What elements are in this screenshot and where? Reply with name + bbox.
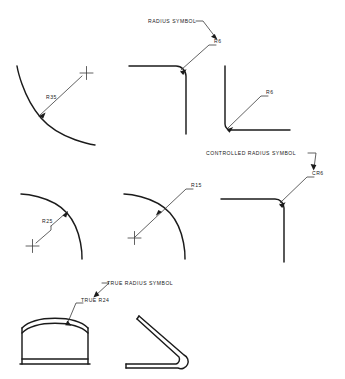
radius-symbol-note-label: RADIUS SYMBOL (148, 18, 196, 24)
r15-leader-line (135, 189, 193, 237)
cr6-dimension-label: CR6 (312, 170, 324, 176)
r6-top-leader-line (181, 45, 216, 70)
figure-cr6-corner: CR6 CONTROLLED RADIUS SYMBOL (206, 150, 324, 263)
r25-arc (21, 194, 82, 259)
controlled-radius-symbol-note-label: CONTROLLED RADIUS SYMBOL (206, 150, 296, 156)
figure-r6-corner: R6 (225, 66, 290, 133)
r35-dimension-label: R35 (46, 94, 57, 100)
figure-r35: R35 (17, 66, 95, 145)
r25-dimension-label: R25 (42, 218, 53, 224)
radius-symbol-corner-profile (129, 66, 186, 134)
figure-bent-sheet-part (126, 316, 188, 369)
figure-r15: R15 (124, 182, 202, 259)
figure-r25: R25 (21, 194, 82, 259)
r25-leader-line (36, 226, 51, 243)
r6-right-dimension-label: R6 (266, 89, 273, 95)
r25-center-mark (26, 240, 39, 253)
cr6-corner-profile (221, 199, 284, 262)
bent-part-top-end-cap (137, 316, 139, 319)
r6-top-dimension-label: R6 (214, 38, 221, 44)
figure-true-r24-arched-part: TRUE R24 TRUE RADIUS SYMBOL (20, 280, 173, 365)
true-radius-symbol-note-label: TRUE RADIUS SYMBOL (107, 280, 173, 286)
r35-center-mark (80, 67, 93, 80)
r15-dimension-label: R15 (191, 182, 202, 188)
cr6-leader-line (280, 177, 314, 203)
figure-radius-symbol-corner: R6 RADIUS SYMBOL (129, 18, 221, 135)
true-r24-dimension-label: TRUE R24 (81, 297, 109, 303)
cad-drawing-svg: R35 R6 RADIUS SYMBOL R6 (0, 0, 345, 379)
r15-arc (124, 194, 185, 259)
engineering-drawing-canvas: R35 R6 RADIUS SYMBOL R6 (0, 0, 345, 379)
arched-part-inner-profile (22, 323, 88, 333)
r6-right-leader-line (228, 96, 268, 128)
r35-arc (17, 66, 95, 145)
bent-part-outer-profile (126, 319, 180, 364)
r6-corner-profile (225, 66, 290, 130)
